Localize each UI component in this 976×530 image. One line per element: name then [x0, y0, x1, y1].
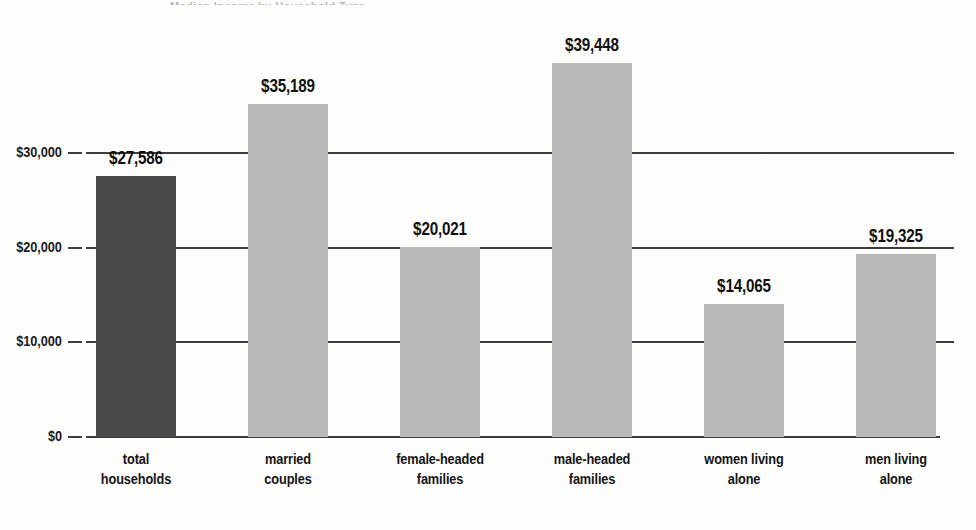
y-axis-right-tick-10000: [940, 341, 954, 343]
bar-chart-plot-area: $0$10,000$20,000$30,000$27,586totalhouse…: [0, 0, 976, 530]
x-axis-category-label-line: alone: [677, 469, 811, 489]
x-axis-baseline: [86, 436, 940, 438]
x-axis-category-label: female-headedfamilies: [373, 449, 507, 489]
bar: [248, 104, 328, 437]
x-axis-category-label: women livingalone: [677, 449, 811, 489]
gridline-20000: [86, 247, 940, 249]
x-axis-category-label-line: couples: [221, 469, 355, 489]
bar: [552, 63, 632, 437]
x-axis-category-label-line: total: [69, 449, 203, 469]
bar: [400, 247, 480, 437]
bar-value-label: $27,586: [75, 148, 197, 169]
y-axis-tick-0: [68, 436, 82, 438]
x-axis-category-label-line: women living: [677, 449, 811, 469]
bar: [856, 254, 936, 437]
x-axis-category-label: totalhouseholds: [69, 449, 203, 489]
y-axis-tick-20000: [68, 247, 82, 249]
bar: [704, 304, 784, 437]
x-axis-category-label-line: households: [69, 469, 203, 489]
x-axis-category-label-line: married: [221, 449, 355, 469]
y-axis-tick-label: $30,000: [16, 144, 62, 160]
x-axis-category-label-line: alone: [829, 469, 963, 489]
y-axis-right-tick-30000: [940, 152, 954, 154]
x-axis-category-label-line: families: [373, 469, 507, 489]
y-axis-tick-label: $0: [48, 428, 62, 444]
x-axis-category-label-line: female-headed: [373, 449, 507, 469]
y-axis-tick-label: $20,000: [16, 239, 62, 255]
x-axis-category-label-line: men living: [829, 449, 963, 469]
bar: [96, 176, 176, 437]
bar-value-label: $20,021: [379, 219, 501, 240]
gridline-10000: [86, 341, 940, 343]
bar-value-label: $19,325: [835, 226, 957, 247]
x-axis-category-label: marriedcouples: [221, 449, 355, 489]
y-axis-tick-10000: [68, 341, 82, 343]
x-axis-category-label-line: male-headed: [525, 449, 659, 469]
x-axis-category-label: male-headedfamilies: [525, 449, 659, 489]
bar-value-label: $39,448: [531, 35, 653, 56]
gridline-30000: [86, 152, 940, 154]
x-axis-category-label: men livingalone: [829, 449, 963, 489]
chart-page: Median Income by Household Type $0$10,00…: [0, 0, 976, 530]
bar-value-label: $14,065: [683, 276, 805, 297]
bar-value-label: $35,189: [227, 76, 349, 97]
x-axis-category-label-line: families: [525, 469, 659, 489]
y-axis-tick-label: $10,000: [16, 333, 62, 349]
